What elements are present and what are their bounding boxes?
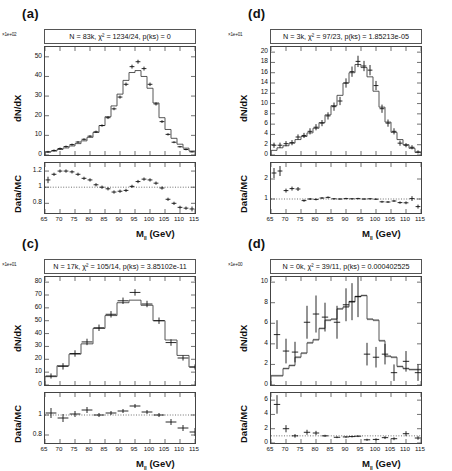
- y-tick-label: 0: [264, 380, 268, 387]
- y-tick-label: 20: [35, 111, 42, 118]
- ratio-plot: [270, 392, 422, 444]
- x-tick-label: 70: [282, 445, 289, 452]
- y-axis-multiplier: ×1e+01: [2, 262, 16, 267]
- ratio-plot: [44, 162, 196, 214]
- y-tick-label: 12: [261, 88, 268, 95]
- x-tick-label: 65: [41, 445, 48, 452]
- y-tick-label: 20: [35, 354, 42, 361]
- y-tick-label: 10: [261, 277, 268, 284]
- panel-title: N = 3k, χ² = 97/23, p(ks) = 1.85213e-05: [270, 29, 422, 44]
- panel-c: (c)×1e+01N = 17k, χ² = 105/14, p(ks) = 3…: [0, 230, 226, 460]
- x-tick-label: 115: [189, 445, 199, 452]
- x-tick-label: 105: [385, 215, 395, 222]
- x-tick-label: 80: [312, 215, 319, 222]
- ratio-y-tick-label: 1: [38, 410, 42, 417]
- x-tick-label: 85: [101, 445, 108, 452]
- ratio-y-axis-label: Data/MC: [12, 175, 23, 213]
- x-tick-label: 95: [357, 215, 364, 222]
- y-tick-label: 8: [264, 109, 268, 116]
- x-tick-label: 85: [327, 215, 334, 222]
- ratio-plot: [44, 392, 196, 444]
- x-tick-label: 85: [101, 215, 108, 222]
- x-tick-label: 80: [312, 445, 319, 452]
- y-tick-label: 80: [35, 277, 42, 284]
- panel-letter: (d): [248, 6, 266, 21]
- ratio-y-tick-label: 2: [264, 424, 268, 431]
- x-tick-label: 100: [144, 445, 154, 452]
- y-axis-label: dN/dX: [12, 95, 23, 122]
- x-tick-label: 90: [342, 215, 349, 222]
- y-tick-label: 2: [264, 140, 268, 147]
- main-histogram-plot: [44, 46, 196, 156]
- y-axis-label: dN/dX: [238, 95, 249, 122]
- y-tick-label: 14: [261, 78, 268, 85]
- y-axis-label: dN/dX: [238, 325, 249, 352]
- y-tick-label: 18: [261, 57, 268, 64]
- x-tick-label: 105: [385, 445, 395, 452]
- y-tick-label: 50: [35, 316, 42, 323]
- ratio-y-tick-label: 0.8: [33, 198, 42, 205]
- main-histogram-plot: [270, 276, 422, 386]
- x-tick-label: 105: [159, 215, 169, 222]
- x-tick-label: 70: [282, 215, 289, 222]
- ratio-y-axis-label: Data/MC: [12, 405, 23, 443]
- ratio-y-axis-label: Data/MC: [238, 175, 249, 213]
- ratio-y-tick-label: 6: [264, 395, 268, 402]
- x-tick-label: 115: [415, 445, 425, 452]
- x-tick-label: 100: [370, 215, 380, 222]
- panel-title: N = 0k, χ² = 39/11, p(ks) = 0.000402525: [270, 259, 422, 274]
- panel-title: N = 83k, χ² = 1234/24, p(ks) = 0: [44, 29, 196, 44]
- x-tick-label: 90: [116, 445, 123, 452]
- ratio-y-tick-label: 0: [264, 438, 268, 445]
- y-axis-multiplier: ×1e+01: [228, 32, 242, 37]
- x-tick-label: 75: [71, 445, 78, 452]
- ratio-y-tick-label: 1: [38, 182, 42, 189]
- y-tick-label: 4: [264, 339, 268, 346]
- x-tick-label: 115: [415, 215, 425, 222]
- x-axis-label: Mll (GeV): [136, 458, 175, 471]
- x-tick-label: 65: [41, 215, 48, 222]
- y-tick-label: 16: [261, 68, 268, 75]
- x-tick-label: 110: [400, 215, 410, 222]
- y-tick-label: 10: [261, 99, 268, 106]
- y-tick-label: 70: [35, 290, 42, 297]
- panel-a: (a)×1e+02N = 83k, χ² = 1234/24, p(ks) = …: [0, 0, 226, 230]
- x-tick-label: 100: [144, 215, 154, 222]
- ratio-y-axis-label: Data/MC: [238, 405, 249, 443]
- y-tick-label: 2: [264, 359, 268, 366]
- y-tick-label: 40: [35, 329, 42, 336]
- panel-letter: (d): [248, 236, 266, 251]
- main-histogram-plot: [270, 46, 422, 156]
- x-tick-label: 95: [131, 445, 138, 452]
- x-tick-label: 95: [357, 445, 364, 452]
- x-tick-label: 75: [71, 215, 78, 222]
- ratio-plot: [270, 162, 422, 214]
- panel-letter: (a): [22, 6, 39, 21]
- x-tick-label: 110: [400, 445, 410, 452]
- x-tick-label: 70: [56, 445, 63, 452]
- x-tick-label: 90: [342, 445, 349, 452]
- x-tick-label: 90: [116, 215, 123, 222]
- x-tick-label: 110: [174, 445, 184, 452]
- x-tick-label: 100: [370, 445, 380, 452]
- y-tick-label: 8: [264, 298, 268, 305]
- x-tick-label: 75: [297, 215, 304, 222]
- y-axis-multiplier: ×1e+02: [2, 32, 16, 37]
- panel-title: N = 17k, χ² = 105/14, p(ks) = 3.85102e-1…: [44, 259, 196, 274]
- y-tick-label: 6: [264, 119, 268, 126]
- y-tick-label: 10: [35, 367, 42, 374]
- panel-b: (d)×1e+01N = 3k, χ² = 97/23, p(ks) = 1.8…: [226, 0, 452, 230]
- x-tick-label: 65: [267, 445, 274, 452]
- x-tick-label: 110: [174, 215, 184, 222]
- ratio-y-tick-label: 4: [264, 409, 268, 416]
- x-tick-label: 70: [56, 215, 63, 222]
- x-tick-label: 75: [297, 445, 304, 452]
- y-axis-multiplier: ×1e+00: [228, 262, 242, 267]
- ratio-y-tick-label: 1: [264, 194, 268, 201]
- y-tick-label: 0: [264, 150, 268, 157]
- ratio-y-tick-label: 2: [264, 174, 268, 181]
- y-tick-label: 30: [35, 341, 42, 348]
- y-tick-label: 0: [38, 380, 42, 387]
- y-tick-label: 30: [35, 91, 42, 98]
